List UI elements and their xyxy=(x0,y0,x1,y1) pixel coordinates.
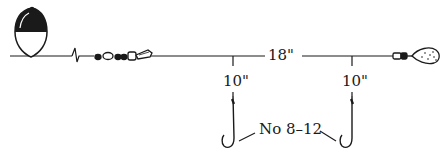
swivel-icon xyxy=(95,50,152,60)
sinker-icon xyxy=(393,48,439,64)
fishing-rig-diagram: 18" 10" 10" No 8–12 xyxy=(0,0,446,158)
hook-icon xyxy=(340,96,353,147)
hook-size-label: No 8–12 xyxy=(259,122,322,137)
dropper-1-length-label: 10" xyxy=(223,74,249,89)
dropper-2-length-label: 10" xyxy=(342,74,368,89)
main-line xyxy=(10,48,395,62)
hook-icon xyxy=(222,96,234,147)
main-line-length-label: 18" xyxy=(268,48,294,63)
bobber-icon xyxy=(15,7,47,57)
